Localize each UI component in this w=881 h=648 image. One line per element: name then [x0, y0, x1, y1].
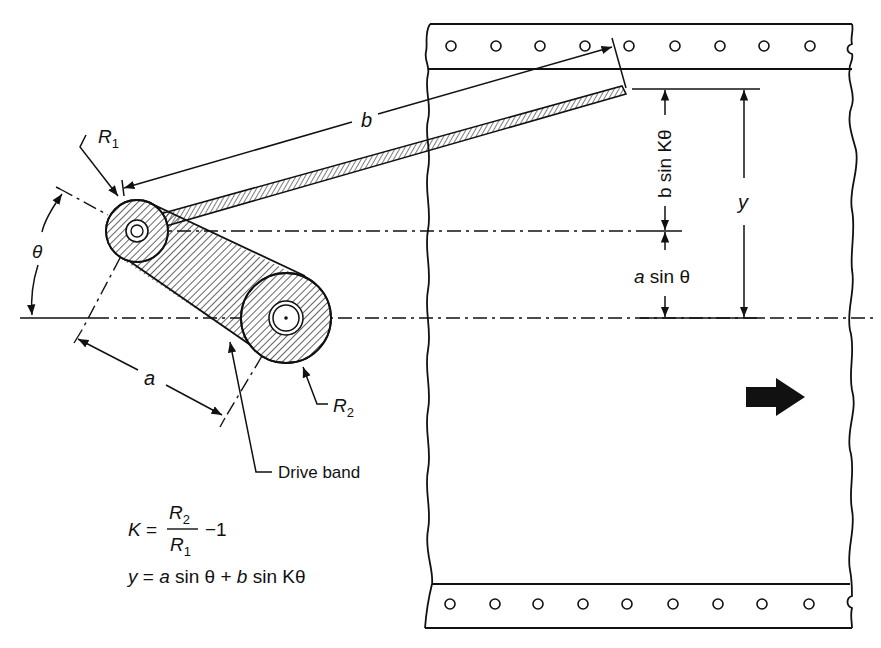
- large-pulley-r2: [241, 273, 331, 363]
- equation-k: K = R2 R1 −1: [128, 502, 227, 559]
- tape-direction-arrow-icon: [746, 378, 805, 416]
- label-a-sin-theta: a sin θ: [634, 266, 690, 287]
- mechanism-diagram: R1 θ a b R2 Drive band b sin Kθ a sin θ …: [0, 0, 881, 648]
- label-a: a: [144, 367, 155, 389]
- label-y: y: [736, 191, 749, 213]
- eq-k-lhs: K =: [128, 519, 157, 540]
- label-theta: θ: [32, 241, 43, 262]
- arm-centerline-upper: [60, 189, 108, 215]
- equation-y: y = a sin θ + b sin Kθ: [126, 566, 305, 587]
- eq-k-numerator: R2: [169, 502, 190, 527]
- pen-arm-rod: [160, 86, 626, 226]
- tape-holes-bottom: [445, 599, 814, 609]
- a-extension-left: [82, 258, 120, 330]
- label-r2: R2: [333, 395, 354, 420]
- tape-right-break-edge: [848, 24, 857, 628]
- eq-k-rhs: −1: [205, 519, 227, 540]
- b-dimension: [122, 38, 626, 196]
- eq-k-denominator: R1: [170, 534, 191, 559]
- drive-band-leader: [230, 342, 272, 472]
- label-r1: R1: [98, 126, 119, 151]
- label-b: b: [361, 109, 372, 131]
- r2-leader: [303, 367, 328, 404]
- label-b-sin-k-theta: b sin Kθ: [654, 129, 675, 198]
- tape-left-break-edge: [425, 24, 432, 628]
- tape-holes-top: [446, 41, 815, 51]
- perforated-tape: [425, 24, 857, 628]
- small-pulley-r1: [106, 200, 168, 262]
- label-drive-band: Drive band: [278, 463, 360, 482]
